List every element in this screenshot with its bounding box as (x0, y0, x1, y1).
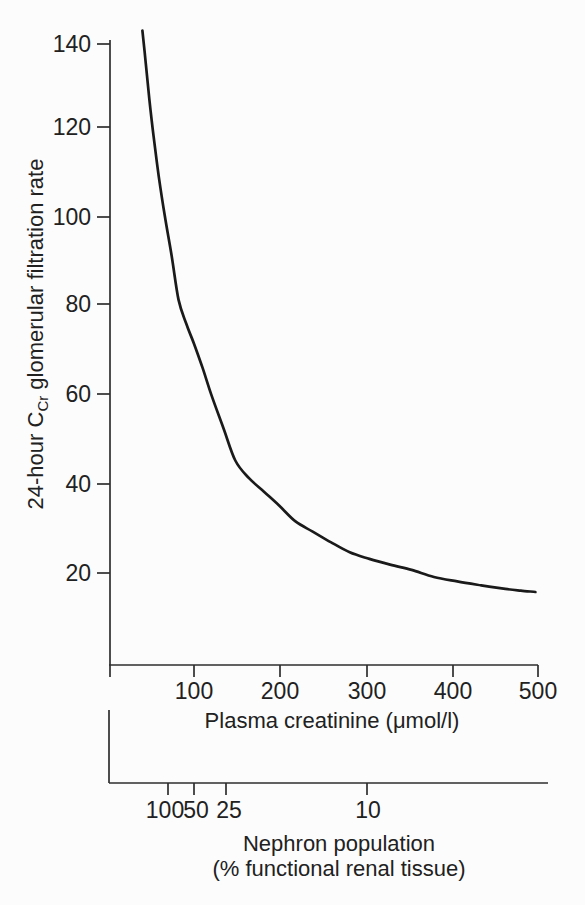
y-tick-label: 80 (65, 291, 91, 317)
x-tick-label: 400 (434, 678, 472, 704)
nephron-tick-label: 25 (216, 797, 242, 823)
y-tick-label: 100 (53, 204, 91, 230)
nephron-axis: 100 50 25 10 Nephron population (% funct… (109, 710, 548, 881)
y-axis-title-subscript: Cr (34, 396, 51, 412)
nephron-tick-label: 100 (146, 797, 184, 823)
x-axis: 100 200 300 400 500 Plasma creatinine (μ… (109, 665, 557, 733)
x-axis-title: Plasma creatinine (μmol/l) (205, 708, 460, 733)
x-tick-label: 300 (348, 678, 386, 704)
y-tick-label: 40 (65, 471, 91, 497)
y-tick-label: 20 (65, 560, 91, 586)
nephron-axis-title-line1: Nephron population (243, 831, 435, 856)
nephron-axis-title-line2: (% functional renal tissue) (212, 856, 465, 881)
x-tick-label: 500 (519, 678, 557, 704)
x-tick-label: 100 (175, 678, 213, 704)
y-axis-title-suffix: glomerular filtration rate (23, 159, 48, 396)
nephron-tick-label: 10 (355, 797, 381, 823)
y-axis: 140 120 100 80 60 40 20 24-hour CCr glom… (23, 31, 110, 677)
gfr-curve (142, 31, 535, 592)
y-axis-title: 24-hour CCr glomerular filtration rate (23, 159, 51, 510)
y-tick-label: 60 (65, 381, 91, 407)
y-tick-label: 120 (53, 114, 91, 140)
gfr-creatinine-chart: 140 120 100 80 60 40 20 24-hour CCr glom… (0, 0, 585, 905)
x-tick-label: 200 (261, 678, 299, 704)
nephron-tick-label: 50 (183, 797, 209, 823)
y-tick-label: 140 (53, 31, 91, 57)
figure-page: 140 120 100 80 60 40 20 24-hour CCr glom… (0, 0, 585, 905)
y-axis-title-prefix: 24-hour C (23, 412, 48, 510)
